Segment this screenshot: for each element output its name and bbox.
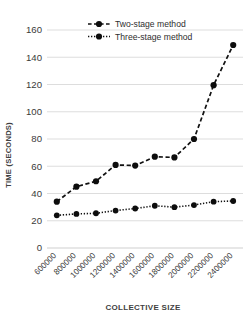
y-tick-label: 140 <box>26 52 42 63</box>
data-point-marker <box>230 198 236 204</box>
data-point-marker <box>230 42 236 48</box>
y-tick-label: 0 <box>37 242 42 253</box>
y-tick-label: 60 <box>31 161 42 172</box>
data-point-marker <box>93 210 99 216</box>
legend-marker-icon <box>96 21 102 27</box>
data-point-marker <box>191 202 197 208</box>
y-axis-title: TIME (SECONDS) <box>4 122 13 188</box>
data-point-marker <box>93 178 99 184</box>
data-point-marker <box>171 154 177 160</box>
y-tick-label: 20 <box>31 215 42 226</box>
y-tick-label: 100 <box>26 106 42 117</box>
data-point-marker <box>73 184 79 190</box>
data-point-marker <box>172 204 178 210</box>
legend-label: Two-stage method <box>115 19 186 29</box>
data-point-marker <box>54 212 60 218</box>
data-point-marker <box>211 82 217 88</box>
legend-label: Three-stage method <box>115 32 193 42</box>
data-point-marker <box>152 154 158 160</box>
y-tick-label: 160 <box>26 24 42 35</box>
data-point-marker <box>132 206 138 212</box>
x-axis-title: COLLECTIVE SIZE <box>105 303 181 312</box>
data-point-marker <box>74 211 80 217</box>
y-tick-label: 80 <box>31 133 42 144</box>
data-point-marker <box>191 136 197 142</box>
data-point-marker <box>152 203 158 209</box>
data-point-marker <box>113 162 119 168</box>
data-point-marker <box>54 199 60 205</box>
data-point-marker <box>211 199 217 205</box>
legend-marker-icon <box>96 33 102 39</box>
chart-figure: 020406080100120140160 TIME (SECONDS) 600… <box>0 0 251 325</box>
chart-canvas: 020406080100120140160 TIME (SECONDS) 600… <box>0 0 251 325</box>
y-tick-label: 120 <box>26 79 42 90</box>
y-tick-label: 40 <box>31 188 42 199</box>
data-point-marker <box>113 208 119 214</box>
data-point-marker <box>132 162 138 168</box>
